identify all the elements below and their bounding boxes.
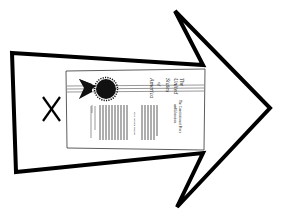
svg-text:America: America	[149, 77, 155, 98]
svg-text:of: of	[157, 82, 162, 87]
document: The United States of America The Constit…	[66, 69, 205, 150]
document-title-line: of	[157, 82, 162, 87]
document-small-label: First Written Record	[133, 112, 136, 136]
svg-text:United: United	[173, 78, 179, 95]
document-subtitle-line: and Liberation	[173, 104, 177, 123]
arrow-document-illustration: The United States of America The Constit…	[0, 0, 285, 221]
svg-text:First Written Record: First Written Record	[133, 112, 136, 136]
svg-text:and Liberation: and Liberation	[173, 104, 177, 123]
document-title-line: United	[173, 78, 179, 95]
illustration-svg: The United States of America The Constit…	[0, 0, 285, 221]
svg-text:States: States	[165, 78, 171, 93]
document-title-line: America	[149, 77, 155, 98]
document-subtitle: The Constitution of Peace	[178, 100, 182, 134]
svg-text:The Constitution of Peace: The Constitution of Peace	[178, 100, 182, 134]
document-title-line: States	[165, 78, 171, 93]
